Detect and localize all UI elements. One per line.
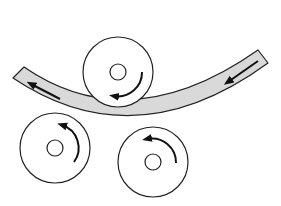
roller-bottom-right bbox=[118, 127, 188, 197]
roller-hub-icon bbox=[110, 64, 126, 80]
roller-top bbox=[83, 37, 153, 107]
roller-hub-icon bbox=[145, 154, 161, 170]
roller-hub-icon bbox=[47, 140, 63, 156]
roller-bottom-left bbox=[20, 113, 90, 183]
three-roll-bending-diagram bbox=[0, 0, 281, 206]
